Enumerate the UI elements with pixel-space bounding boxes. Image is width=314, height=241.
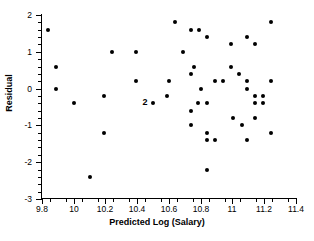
data-point bbox=[54, 87, 58, 91]
y-minor-tick bbox=[38, 111, 41, 112]
y-minor-tick bbox=[38, 147, 41, 148]
data-point bbox=[134, 79, 138, 83]
data-point bbox=[269, 131, 273, 135]
y-tick bbox=[36, 15, 41, 16]
data-point bbox=[205, 131, 209, 135]
data-point bbox=[189, 28, 193, 32]
x-minor-tick bbox=[256, 199, 257, 202]
data-point bbox=[88, 175, 92, 179]
data-point bbox=[189, 109, 193, 113]
y-minor-tick bbox=[38, 37, 41, 38]
data-point bbox=[231, 116, 235, 120]
y-minor-tick bbox=[38, 155, 41, 156]
x-minor-tick bbox=[50, 199, 51, 202]
y-tick-label: -2 bbox=[2, 158, 32, 167]
x-minor-tick bbox=[113, 199, 114, 202]
y-minor-tick bbox=[38, 133, 41, 134]
data-point bbox=[110, 50, 114, 54]
scatter-plot-figure: 210-1-2-3 9.81010.210.410.610.81111.211.… bbox=[0, 0, 314, 241]
y-minor-tick bbox=[38, 192, 41, 193]
y-minor-tick bbox=[38, 177, 41, 178]
x-minor-tick bbox=[209, 199, 210, 202]
data-point bbox=[253, 116, 257, 120]
x-minor-tick bbox=[288, 199, 289, 202]
x-minor-tick bbox=[240, 199, 241, 202]
y-minor-tick bbox=[38, 81, 41, 82]
data-point bbox=[192, 65, 196, 69]
y-tick bbox=[36, 89, 41, 90]
y-minor-tick bbox=[38, 74, 41, 75]
y-minor-tick bbox=[38, 118, 41, 119]
data-point bbox=[245, 87, 249, 91]
data-point bbox=[269, 79, 273, 83]
x-minor-tick bbox=[193, 199, 194, 202]
data-point bbox=[102, 94, 106, 98]
y-minor-tick bbox=[38, 44, 41, 45]
y-minor-tick bbox=[38, 140, 41, 141]
y-minor-tick bbox=[38, 59, 41, 60]
y-axis-title: Residual bbox=[4, 58, 14, 128]
y-tick bbox=[36, 199, 41, 200]
y-tick bbox=[36, 52, 41, 53]
data-point bbox=[199, 87, 203, 91]
data-point bbox=[205, 168, 209, 172]
y-tick-label: -3 bbox=[2, 195, 32, 204]
x-minor-tick bbox=[82, 199, 83, 202]
data-point bbox=[229, 65, 233, 69]
data-point bbox=[245, 138, 249, 142]
plot-area bbox=[42, 15, 296, 199]
data-point bbox=[253, 94, 257, 98]
y-minor-tick bbox=[38, 96, 41, 97]
x-minor-tick bbox=[145, 199, 146, 202]
y-minor-tick bbox=[38, 30, 41, 31]
y-minor-tick bbox=[38, 184, 41, 185]
x-minor-tick bbox=[225, 199, 226, 202]
y-tick bbox=[36, 125, 41, 126]
data-point bbox=[245, 79, 249, 83]
data-point bbox=[197, 28, 201, 32]
data-point bbox=[134, 50, 138, 54]
y-minor-tick bbox=[38, 170, 41, 171]
x-minor-tick bbox=[98, 199, 99, 202]
x-minor-tick bbox=[129, 199, 130, 202]
x-minor-tick bbox=[161, 199, 162, 202]
x-minor-tick bbox=[272, 199, 273, 202]
data-point bbox=[245, 35, 249, 39]
y-tick bbox=[36, 162, 41, 163]
y-minor-tick bbox=[38, 67, 41, 68]
data-point bbox=[102, 131, 106, 135]
data-point bbox=[261, 94, 265, 98]
x-minor-tick bbox=[66, 199, 67, 202]
data-point bbox=[196, 101, 200, 105]
y-tick-label: 1 bbox=[2, 48, 32, 57]
data-point bbox=[54, 65, 58, 69]
x-tick-label: 11.4 bbox=[276, 205, 314, 214]
x-minor-tick bbox=[177, 199, 178, 202]
point-count-annotation: 2 bbox=[143, 98, 148, 107]
data-point bbox=[237, 72, 241, 76]
y-minor-tick bbox=[38, 22, 41, 23]
x-axis-title: Predicted Log (Salary) bbox=[0, 217, 314, 227]
y-minor-tick bbox=[38, 103, 41, 104]
y-tick-label: 2 bbox=[2, 11, 32, 20]
